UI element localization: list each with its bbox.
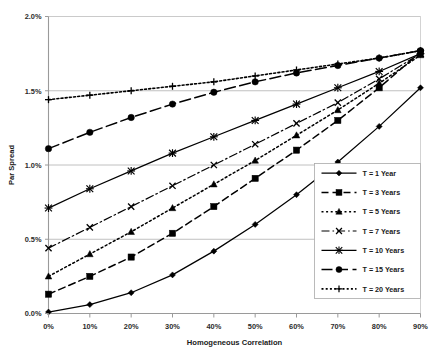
y-tick-label-0.0%: 0.0% [25, 309, 42, 318]
data-point-7-asterisk-marker [334, 84, 342, 92]
chart-legend[interactable]: T = 1 YearT = 3 YearsT = 5 YearsT = 7 Ye… [315, 164, 421, 299]
x-tick-label-70%: 70% [330, 322, 345, 331]
data-point-4-asterisk-marker [210, 133, 218, 141]
data-point-1-circle-marker [87, 129, 93, 135]
x-tick-label-0%: 0% [43, 322, 54, 331]
y-axis-title: Par Spread [7, 145, 16, 185]
data-point-3-square-marker [169, 230, 175, 236]
data-point-4-circle-marker [211, 89, 217, 95]
legend-label: T = 1 Year [363, 169, 397, 178]
par-spread-line-chart: 0%10%20%30%40%50%60%70%80%90% 0.0%0.5%1.… [0, 0, 443, 350]
legend-marker-circle-marker [336, 267, 342, 273]
x-tick-label-30%: 30% [165, 322, 180, 331]
x-tick-label-10%: 10% [82, 322, 97, 331]
legend-label: T = 3 Years [363, 188, 401, 197]
data-point-5-square-marker [252, 175, 258, 181]
data-point-2-circle-marker [128, 114, 134, 120]
data-point-5-circle-marker [252, 79, 258, 85]
data-point-2-asterisk-marker [127, 167, 135, 175]
x-tick-label-80%: 80% [372, 322, 387, 331]
y-tick-label-1.5%: 1.5% [25, 87, 42, 96]
data-point-3-asterisk-marker [169, 149, 177, 157]
legend-label: T = 15 Years [363, 265, 405, 274]
data-point-0-asterisk-marker [45, 204, 53, 212]
data-point-2-square-marker [128, 254, 134, 260]
data-point-4-square-marker [211, 203, 217, 209]
x-tick-label-60%: 60% [289, 322, 304, 331]
y-tick-label-0.5%: 0.5% [25, 235, 42, 244]
data-point-6-square-marker [293, 147, 299, 153]
data-point-0-circle-marker [45, 145, 51, 151]
legend-label: T = 7 Years [363, 227, 401, 236]
y-tick-label-2.0%: 2.0% [25, 12, 42, 21]
chart-canvas: 0%10%20%30%40%50%60%70%80%90% 0.0%0.5%1.… [0, 0, 443, 350]
data-point-6-asterisk-marker [293, 100, 301, 108]
x-tick-label-20%: 20% [124, 322, 139, 331]
x-tick-label-50%: 50% [248, 322, 263, 331]
data-point-5-asterisk-marker [251, 117, 259, 125]
legend-label: T = 20 Years [363, 285, 405, 294]
x-axis-title: Homogeneous Correlation [187, 338, 283, 347]
data-point-0-square-marker [45, 291, 51, 297]
y-tick-label-1.0%: 1.0% [25, 161, 42, 170]
legend-marker-square-marker [336, 189, 342, 195]
data-point-3-circle-marker [169, 101, 175, 107]
x-tick-label-90%: 90% [413, 322, 428, 331]
data-point-7-square-marker [335, 117, 341, 123]
x-tick-label-40%: 40% [206, 322, 221, 331]
legend-label: T = 10 Years [363, 246, 405, 255]
data-point-8-asterisk-marker [375, 68, 383, 76]
legend-marker-asterisk-marker [335, 247, 342, 254]
data-point-1-square-marker [87, 273, 93, 279]
data-point-1-asterisk-marker [86, 185, 94, 193]
legend-label: T = 5 Years [363, 207, 401, 216]
